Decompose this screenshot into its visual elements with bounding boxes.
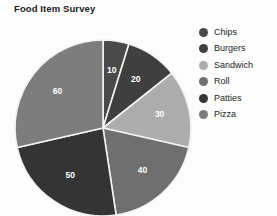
legend-swatch-icon bbox=[199, 77, 208, 86]
legend-item-label: Sandwich bbox=[214, 61, 253, 70]
pie-slice-label: 40 bbox=[138, 165, 148, 175]
legend-item-label: Patties bbox=[214, 94, 242, 103]
legend-swatch-icon bbox=[199, 110, 208, 119]
legend-item[interactable]: Roll bbox=[199, 74, 277, 91]
legend-item-label: Roll bbox=[214, 77, 230, 86]
pie-slice-label: 60 bbox=[53, 86, 63, 96]
pie-slice-label: 50 bbox=[66, 170, 76, 180]
pie-svg: 102030405060 bbox=[0, 0, 200, 216]
chart-legend: ChipsBurgersSandwichRollPattiesPizza bbox=[199, 24, 277, 123]
legend-item[interactable]: Burgers bbox=[199, 41, 277, 58]
legend-item-label: Pizza bbox=[214, 110, 236, 119]
legend-swatch-icon bbox=[199, 28, 208, 37]
pie-plot-area: 102030405060 bbox=[0, 0, 200, 216]
legend-swatch-icon bbox=[199, 44, 208, 53]
legend-item-label: Burgers bbox=[214, 44, 246, 53]
pie-slice-label: 20 bbox=[131, 74, 141, 84]
legend-swatch-icon bbox=[199, 61, 208, 70]
pie-slice-label: 30 bbox=[155, 109, 165, 119]
pie-slice-group bbox=[15, 40, 191, 216]
legend-item[interactable]: Chips bbox=[199, 24, 277, 41]
pie-slice-label: 10 bbox=[107, 65, 117, 75]
legend-swatch-icon bbox=[199, 94, 208, 103]
legend-item[interactable]: Patties bbox=[199, 90, 277, 107]
pie-chart-figure: Food Item Survey 102030405060 ChipsBurge… bbox=[0, 0, 277, 216]
legend-item[interactable]: Pizza bbox=[199, 107, 277, 124]
legend-item[interactable]: Sandwich bbox=[199, 57, 277, 74]
legend-item-label: Chips bbox=[214, 28, 237, 37]
